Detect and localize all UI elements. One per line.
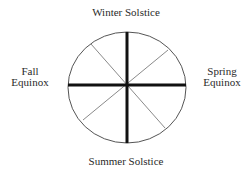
fall-equinox-label: Fall Equinox	[4, 66, 56, 88]
fall-equinox-label-line-2: Equinox	[4, 77, 56, 88]
summer-solstice-label: Summer Solstice	[0, 156, 252, 167]
spring-equinox-label-line-2: Equinox	[196, 77, 248, 88]
spring-equinox-label: Spring Equinox	[196, 66, 248, 88]
winter-solstice-label: Winter Solstice	[0, 7, 252, 18]
